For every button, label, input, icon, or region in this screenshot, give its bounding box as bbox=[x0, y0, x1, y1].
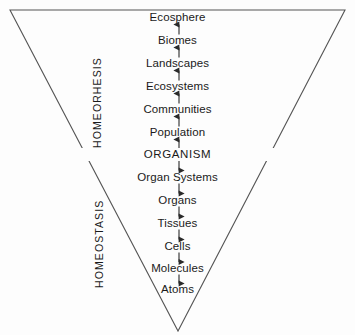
triangle-and-arrows-graphic bbox=[0, 0, 355, 335]
side-label-homeostasis: HOMEOSTASIS bbox=[93, 200, 105, 288]
inverted-triangle-outline bbox=[10, 10, 345, 331]
hierarchy-diagram: Ecosphere Biomes Landscapes Ecosystems C… bbox=[0, 0, 355, 335]
side-label-homeorhesis: HOMEORHESIS bbox=[91, 57, 103, 148]
